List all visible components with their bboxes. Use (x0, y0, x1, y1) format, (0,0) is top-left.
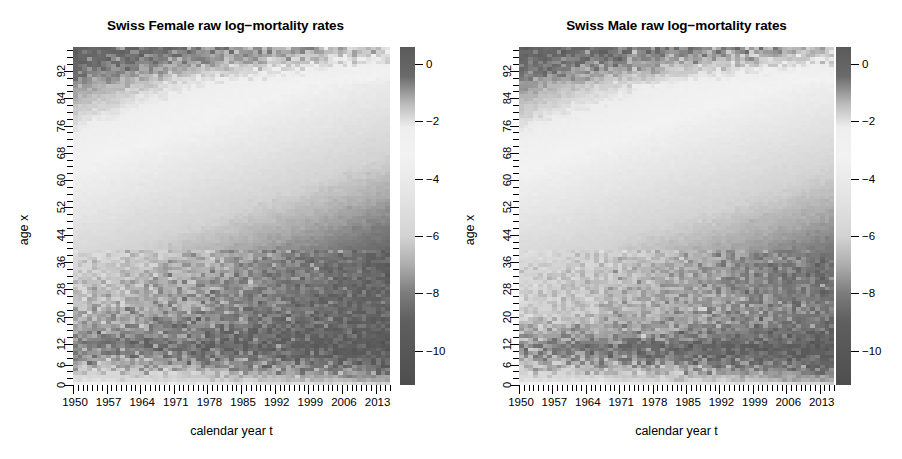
x-tick-minor (710, 385, 711, 391)
x-tick-label: 1950 (62, 396, 88, 408)
x-tick-minor (222, 385, 223, 391)
x-tick-major (342, 385, 343, 394)
x-tick-minor (227, 385, 228, 391)
x-tick-minor (328, 385, 329, 391)
y-tick-minor (513, 166, 519, 167)
x-tick-minor (121, 385, 122, 391)
y-tick-label: 52 (502, 201, 513, 213)
x-tick-minor (361, 385, 362, 391)
x-tick-minor (83, 385, 84, 391)
x-tick-label: 2013 (365, 396, 391, 408)
x-tick-minor (280, 385, 281, 391)
x-tick-minor (102, 385, 103, 391)
y-tick-minor (513, 303, 519, 304)
x-tick-minor (829, 385, 830, 391)
x-tick-minor (562, 385, 563, 391)
y-tick-minor (67, 303, 73, 304)
x-tick-minor (126, 385, 127, 391)
y-tick-minor (67, 228, 73, 229)
y-tick-minor (67, 269, 73, 270)
x-tick-minor (648, 385, 649, 391)
y-tick-minor (67, 324, 73, 325)
x-tick-minor (557, 385, 558, 391)
y-tick-minor (67, 85, 73, 86)
colorbar-axis-female: 0−2−4−6−8−10 (415, 47, 423, 385)
colorbar-tick-label: −4 (426, 173, 439, 185)
y-tick-minor (513, 57, 519, 58)
y-tick-minor (67, 166, 73, 167)
x-tick-minor (179, 385, 180, 391)
y-tick-label: 20 (56, 311, 67, 323)
colorbar-tick-label: −10 (426, 345, 446, 357)
x-tick-label: 1950 (508, 396, 534, 408)
x-tick-minor (212, 385, 213, 391)
y-tick-minor (67, 105, 73, 106)
x-tick-minor (610, 385, 611, 391)
x-tick-minor (748, 385, 749, 391)
y-tick-minor (513, 310, 519, 311)
colorbar-tick (415, 293, 423, 294)
panel-title: Swiss Male raw log−mortality rates (451, 18, 902, 34)
x-tick-label: 1992 (709, 396, 735, 408)
x-axis-title: calendar year t (73, 424, 390, 438)
x-tick-minor (169, 385, 170, 391)
x-tick-minor (217, 385, 218, 391)
y-tick-label: 84 (502, 92, 513, 104)
x-tick-minor (643, 385, 644, 391)
x-tick-minor (380, 385, 381, 391)
x-tick-minor (677, 385, 678, 391)
x-tick-minor (572, 385, 573, 391)
y-tick-minor (513, 50, 519, 51)
y-tick-minor (513, 214, 519, 215)
colorbar-tick-label: 0 (862, 58, 868, 70)
y-tick-label: 60 (502, 174, 513, 186)
y-tick-minor (67, 139, 73, 140)
y-tick-minor (67, 173, 73, 174)
heatmap-plot-male (519, 47, 834, 385)
x-tick-minor (111, 385, 112, 391)
x-tick-minor (256, 385, 257, 391)
panel-swiss-female: Swiss Female raw log−mortality rates 061… (0, 0, 451, 459)
y-tick-label: 44 (56, 229, 67, 241)
x-tick-major (73, 385, 74, 394)
x-tick-minor (385, 385, 386, 391)
y-tick-minor (513, 194, 519, 195)
x-tick-minor (667, 385, 668, 391)
x-tick-minor (323, 385, 324, 391)
x-tick-major (174, 385, 175, 394)
colorbar-tick-label: −6 (862, 230, 875, 242)
y-tick-minor (513, 221, 519, 222)
x-tick-minor (304, 385, 305, 391)
x-tick-label: 2006 (331, 396, 357, 408)
colorbar-tick (851, 121, 859, 122)
y-tick-minor (513, 276, 519, 277)
x-tick-minor (591, 385, 592, 391)
y-tick-minor (67, 132, 73, 133)
colorbar-tick (415, 351, 423, 352)
y-tick-minor (67, 64, 73, 65)
x-tick-minor (92, 385, 93, 391)
y-tick-label: 44 (502, 229, 513, 241)
y-tick-minor (513, 330, 519, 331)
y-tick-label: 0 (502, 382, 513, 388)
y-tick-minor (513, 255, 519, 256)
y-tick-label: 60 (56, 174, 67, 186)
colorbar-tick-label: −2 (862, 115, 875, 127)
x-tick-major (653, 385, 654, 394)
x-tick-minor (700, 385, 701, 391)
y-tick-minor (67, 378, 73, 379)
x-tick-minor (87, 385, 88, 391)
y-tick-minor (67, 358, 73, 359)
y-tick-label: 20 (502, 311, 513, 323)
y-tick-minor (513, 324, 519, 325)
y-tick-label: 84 (56, 92, 67, 104)
colorbar-tick-label: −8 (426, 287, 439, 299)
x-tick-minor (805, 385, 806, 391)
y-tick-minor (67, 330, 73, 331)
x-tick-minor (762, 385, 763, 391)
y-tick-minor (67, 351, 73, 352)
y-tick-minor (513, 132, 519, 133)
y-tick-minor (67, 221, 73, 222)
colorbar-tick (851, 293, 859, 294)
y-tick-minor (67, 119, 73, 120)
